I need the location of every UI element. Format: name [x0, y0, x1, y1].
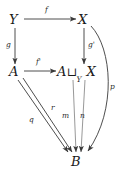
label-morphism-g-prime: g'	[88, 41, 95, 49]
label-morphism-n: n	[80, 112, 85, 120]
pushout-tail: X	[87, 64, 96, 79]
arrow-q	[18, 80, 68, 152]
pushout-head: A	[57, 64, 66, 79]
label-morphism-f: f	[45, 6, 48, 14]
pushout-subscript: Y	[76, 75, 81, 84]
arrow-m	[73, 80, 76, 152]
object-B: B	[71, 155, 81, 168]
label-morphism-r: r	[51, 104, 55, 112]
label-morphism-p: p	[110, 83, 115, 91]
object-A: A	[9, 65, 18, 78]
object-Y: Y	[9, 13, 18, 26]
commutative-diagram: Y X A A⊔Y X B f g g' f' q r m n p	[0, 0, 129, 177]
label-morphism-g: g	[6, 41, 11, 49]
object-pushout: A⊔Y X	[57, 65, 96, 81]
label-morphism-q: q	[29, 116, 34, 124]
object-X: X	[78, 13, 87, 26]
label-morphism-f-prime: f'	[36, 58, 41, 66]
label-morphism-m: m	[62, 112, 69, 120]
